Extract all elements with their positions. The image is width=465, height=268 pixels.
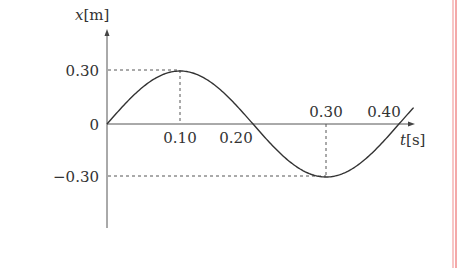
chart-svg: x[m] 0.30 0 −0.30 0.10 0.20 0.30 0.40 t[… (0, 0, 465, 268)
x-tick-010: 0.10 (163, 129, 196, 147)
y-axis-arrow-icon (105, 29, 110, 36)
x-axis-arrow-icon (408, 122, 415, 127)
y-tick-030: 0.30 (66, 62, 99, 80)
x-axis-label: t[s] (400, 131, 425, 149)
guide-lines (108, 70, 326, 176)
x-tick-030: 0.30 (309, 103, 342, 121)
y-tick-neg030: −0.30 (53, 168, 99, 186)
x-tick-020: 0.20 (219, 129, 252, 147)
y-tick-0: 0 (89, 116, 99, 134)
y-axis-label: x[m] (75, 6, 109, 24)
x-tick-040: 0.40 (367, 103, 400, 121)
